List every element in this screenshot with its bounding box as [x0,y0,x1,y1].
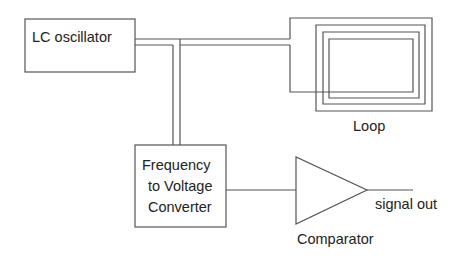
loop-coil: Loop [290,18,432,134]
lc-oscillator-block: LC oscillator [25,19,135,72]
comparator-block: Comparator [296,157,374,247]
converter-label-line-2: to Voltage [148,178,213,194]
loop-coil-winding [290,18,432,111]
converter-label-line-1: Frequency [142,157,211,173]
oscillator-loop-connection [135,39,290,145]
loop-label: Loop [353,118,385,134]
comparator-triangle [296,157,367,224]
block-diagram: LC oscillator Loop Frequency to Voltage … [0,0,462,256]
comparator-label: Comparator [297,231,374,247]
lc-oscillator-box [25,19,135,72]
lc-oscillator-label: LC oscillator [32,29,112,45]
converter-label-line-3: Converter [148,199,212,215]
frequency-to-voltage-block: Frequency to Voltage Converter [135,145,226,227]
signal-out-label: signal out [375,196,437,212]
